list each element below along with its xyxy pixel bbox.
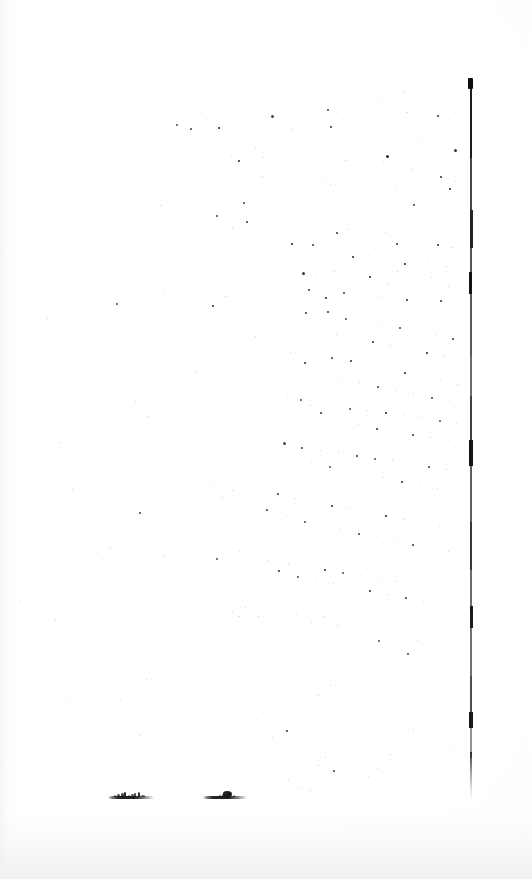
speck-dot bbox=[286, 132, 287, 133]
speck-dot bbox=[341, 762, 342, 763]
smudge-tuft bbox=[229, 792, 231, 798]
speck-dot bbox=[454, 749, 455, 750]
speck-dot bbox=[369, 590, 371, 592]
speck-dot bbox=[368, 776, 369, 777]
gutter-line-segment bbox=[470, 356, 472, 396]
speck-dot bbox=[414, 584, 415, 585]
speck-dot bbox=[20, 600, 21, 601]
speck-dot bbox=[378, 578, 379, 579]
speck-dot bbox=[337, 625, 338, 626]
speck-dot bbox=[325, 297, 327, 299]
gutter-line-segment bbox=[470, 88, 472, 158]
speck-dot bbox=[350, 360, 352, 362]
speck-dot bbox=[437, 244, 439, 246]
speck-dot bbox=[66, 700, 67, 701]
smudge-tuft bbox=[124, 792, 126, 798]
speck-dot bbox=[422, 294, 423, 295]
speck-dot bbox=[427, 161, 428, 162]
speck-dot bbox=[322, 525, 323, 526]
gutter-line-cap bbox=[468, 78, 473, 89]
speck-dot bbox=[342, 119, 343, 120]
speck-dot bbox=[387, 594, 388, 595]
speck-dot bbox=[381, 322, 382, 323]
speck-dot bbox=[390, 754, 391, 755]
speck-dot bbox=[378, 101, 379, 102]
gutter-line-segment bbox=[470, 606, 473, 628]
speck-dot bbox=[206, 118, 207, 119]
speck-dot bbox=[110, 548, 111, 549]
speck-dot bbox=[295, 498, 296, 499]
speck-dot bbox=[360, 575, 361, 576]
speck-dot bbox=[338, 452, 339, 453]
gutter-line-segment bbox=[470, 570, 472, 614]
speck-dot bbox=[369, 196, 370, 197]
speck-dot bbox=[452, 247, 453, 248]
speck-dot bbox=[431, 277, 432, 278]
speck-dot bbox=[225, 296, 226, 297]
speck-dot bbox=[423, 601, 424, 602]
gutter-line-segment bbox=[470, 248, 472, 292]
speck-dot bbox=[329, 466, 331, 468]
speck-dot bbox=[283, 442, 286, 445]
gutter-line-segment bbox=[470, 210, 473, 248]
speck-dot bbox=[286, 730, 288, 732]
speck-dot bbox=[455, 181, 456, 182]
speck-dot bbox=[404, 91, 405, 92]
speck-dot bbox=[395, 186, 396, 187]
speck-dot bbox=[401, 481, 403, 483]
gutter-line-segment bbox=[470, 396, 472, 444]
speck-dot bbox=[266, 509, 268, 511]
speck-dot bbox=[245, 607, 246, 608]
speck-dot bbox=[313, 722, 314, 723]
speck-dot bbox=[394, 540, 395, 541]
speck-dot bbox=[131, 487, 132, 488]
smudge-tuft bbox=[222, 794, 225, 798]
speck-dot bbox=[327, 109, 329, 111]
gutter-line-fade bbox=[470, 752, 472, 800]
speck-dot bbox=[216, 215, 218, 217]
speck-dot bbox=[440, 300, 442, 302]
speck-dot bbox=[377, 768, 378, 769]
gutter-line-segment bbox=[470, 294, 472, 356]
speck-dot bbox=[408, 348, 409, 349]
speck-dot bbox=[345, 318, 347, 320]
speck-dot bbox=[232, 228, 233, 229]
speck-dot bbox=[421, 238, 422, 239]
speck-dot bbox=[341, 377, 342, 378]
speck-dot bbox=[331, 505, 333, 507]
speck-dot bbox=[299, 663, 300, 664]
speck-dot bbox=[349, 618, 350, 619]
speck-dot bbox=[310, 405, 311, 406]
speck-dot bbox=[411, 169, 412, 170]
speck-dot bbox=[405, 133, 406, 134]
gutter-line-segment bbox=[470, 522, 472, 570]
speck-dot bbox=[122, 310, 123, 311]
speck-dot bbox=[386, 155, 389, 158]
speck-dot bbox=[311, 622, 312, 623]
paper-left-edge-shadow bbox=[0, 0, 16, 879]
speck-dot bbox=[262, 176, 263, 177]
speck-dot bbox=[437, 115, 439, 117]
speck-dot bbox=[301, 447, 303, 449]
speck-dot bbox=[334, 271, 335, 272]
speck-dot bbox=[446, 722, 447, 723]
speck-dot bbox=[315, 580, 316, 581]
speck-dot bbox=[428, 466, 430, 468]
gutter-line-segment bbox=[469, 272, 472, 294]
speck-dot bbox=[306, 566, 307, 567]
speck-dot bbox=[324, 569, 326, 571]
speck-dot bbox=[288, 780, 289, 781]
speck-dot bbox=[404, 372, 406, 374]
speck-dot bbox=[28, 520, 29, 521]
speck-dot bbox=[351, 587, 352, 588]
speck-dot bbox=[421, 137, 422, 138]
speck-dot bbox=[267, 560, 268, 561]
speck-dot bbox=[163, 556, 164, 557]
speck-dot bbox=[105, 660, 106, 661]
speck-dot bbox=[437, 741, 438, 742]
speck-dot bbox=[396, 243, 398, 245]
speck-dot bbox=[403, 519, 404, 520]
speck-dot bbox=[243, 202, 245, 204]
speck-dot bbox=[212, 305, 214, 307]
speck-dot bbox=[210, 485, 211, 486]
